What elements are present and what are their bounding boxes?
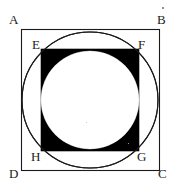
geometry-figure: A B C D E F G H: [0, 0, 175, 191]
vertex-label-c: C: [158, 167, 167, 180]
vertex-label-f: F: [138, 38, 145, 51]
figure-canvas: [0, 0, 175, 191]
vertex-label-e: E: [32, 38, 40, 51]
vertex-label-g: G: [137, 150, 146, 163]
scan-speck-center: [86, 122, 87, 123]
vertex-label-a: A: [9, 13, 18, 26]
small-inscribed-circle: [41, 51, 139, 149]
scan-speck-near-g: [128, 143, 129, 144]
scan-speck-top-right: [162, 7, 164, 9]
vertex-label-d: D: [9, 167, 18, 180]
vertex-label-h: H: [31, 150, 40, 163]
vertex-label-b: B: [157, 13, 166, 26]
